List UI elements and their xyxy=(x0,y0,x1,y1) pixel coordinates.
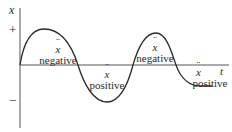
x-double-dot-symbol: x xyxy=(105,69,110,80)
x-double-dot-symbol: x xyxy=(196,67,201,78)
region-sign-label: positive xyxy=(190,78,230,89)
region-sign-label: negative xyxy=(135,53,175,64)
region-label-4: x positive xyxy=(190,67,230,89)
plus-mark: + xyxy=(9,24,16,35)
region-label-1: x negative xyxy=(38,44,78,66)
x-double-dot-symbol: x xyxy=(153,42,158,53)
minus-mark: − xyxy=(9,95,16,106)
region-sign-label: positive xyxy=(87,80,127,91)
region-label-3: x negative xyxy=(135,42,175,64)
y-axis-label: x xyxy=(9,5,14,16)
region-sign-label: negative xyxy=(38,55,78,66)
region-label-2: x positive xyxy=(87,69,127,91)
x-double-dot-symbol: x xyxy=(56,44,61,55)
